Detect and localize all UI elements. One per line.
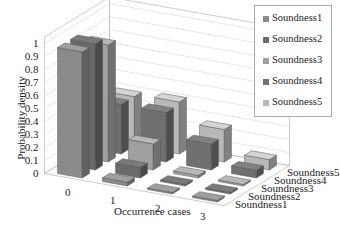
y-tick-label: 0.8 (15, 63, 39, 75)
y-tick-label: 1 (15, 37, 39, 49)
y-tick-label: 0.9 (15, 50, 39, 62)
x-tick-label: 1 (110, 194, 116, 206)
legend-label: Soundness2 (272, 33, 322, 44)
legend-label: Soundness1 (272, 12, 322, 23)
legend-swatch (263, 37, 269, 43)
y-tick-label: 0.4 (15, 115, 39, 127)
legend-swatch (263, 58, 269, 64)
y-tick-label: 0.3 (15, 128, 39, 140)
legend-label: Soundness4 (272, 75, 322, 86)
bar (187, 135, 219, 170)
legend-item: Soundness2 (263, 33, 322, 44)
x-tick-label: 3 (200, 210, 206, 222)
bar (58, 43, 90, 178)
x-tick-label: 0 (65, 186, 71, 198)
y-tick-label: 0.2 (15, 141, 39, 153)
legend-label: Soundness3 (272, 54, 322, 65)
legend-item: Soundness3 (263, 54, 322, 65)
y-tick-label: 0.5 (15, 102, 39, 114)
y-tick-label: 0.7 (15, 76, 39, 88)
legend-item: Soundness4 (263, 75, 322, 86)
x-tick-label: 2 (155, 202, 161, 214)
legend-swatch (263, 16, 269, 22)
y-tick-label: 0 (15, 167, 39, 179)
y-tick-label: 0.1 (15, 154, 39, 166)
legend-item: Soundness1 (263, 12, 322, 23)
legend: Soundness1Soundness2Soundness3Soundness4… (254, 5, 332, 117)
x-axis-label: Occurrence cases (114, 205, 191, 217)
legend-label: Soundness5 (272, 96, 322, 107)
legend-swatch (263, 79, 269, 85)
legend-item: Soundness5 (263, 96, 322, 107)
legend-swatch (263, 100, 269, 106)
z-tick-label: Soundness5 (287, 166, 340, 178)
y-tick-label: 0.6 (15, 89, 39, 101)
